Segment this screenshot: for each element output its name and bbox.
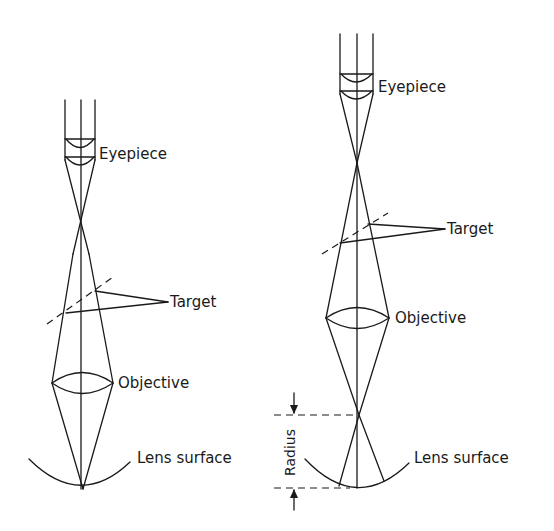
left-eyepiece-lenses — [65, 139, 95, 165]
left-label-eyepiece: Eyepiece — [99, 145, 167, 163]
left-label-lens-surface: Lens surface — [137, 449, 232, 467]
left-lens-surface-arc — [29, 459, 130, 485]
left-objective-lens — [52, 373, 113, 394]
left-diagram: Eyepiece Target Objective Lens surface — [29, 100, 232, 489]
right-label-lens-surface: Lens surface — [414, 449, 509, 467]
left-rays-upper — [52, 160, 113, 383]
right-label-eyepiece: Eyepiece — [378, 78, 446, 96]
left-eyepiece-tube — [65, 100, 95, 489]
optical-diagram: Eyepiece Target Objective Lens surface — [0, 0, 554, 531]
arrow-up-icon — [290, 489, 298, 498]
right-label-target: Target — [446, 220, 494, 238]
right-label-objective: Objective — [395, 309, 466, 327]
left-label-objective: Objective — [118, 374, 189, 392]
right-eyepiece-tube — [340, 34, 373, 488]
left-rays-lower — [52, 383, 113, 489]
right-diagram: Radius Eyepiece Target Objective Lens su… — [274, 34, 509, 510]
right-label-radius: Radius — [282, 429, 298, 476]
arrow-down-icon — [290, 405, 298, 414]
radius-dimension: Radius — [274, 393, 359, 510]
left-label-target: Target — [169, 293, 217, 311]
